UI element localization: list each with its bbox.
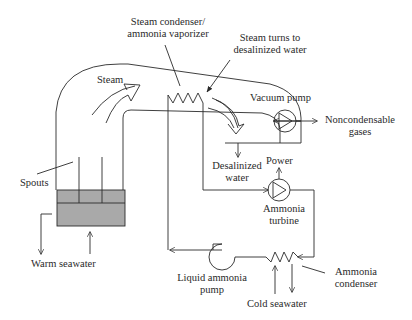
ammonia-turbine-icon xyxy=(268,179,290,201)
ammonia-condenser-leader xyxy=(302,266,325,273)
label-ammonia-turbine: Ammonia turbine xyxy=(259,203,309,227)
label-spouts: Spouts xyxy=(20,177,49,189)
condenser-leader xyxy=(165,45,180,86)
steam-condenser xyxy=(168,93,203,250)
label-liquid-ammonia-pump: Liquid ammonia pump xyxy=(167,272,257,296)
ammonia-condenser-icon xyxy=(235,252,298,262)
label-warm-seawater: Warm seawater xyxy=(31,258,96,270)
label-vacuum-pump: Vacuum pump xyxy=(250,92,311,104)
evaporator-tank xyxy=(57,157,125,226)
label-ammonia-condenser: Ammonia condenser xyxy=(329,266,383,290)
label-noncondensable: Noncondensable gases xyxy=(320,114,400,138)
label-cold-seawater: Cold seawater xyxy=(247,298,307,310)
liquid-ammonia-pump-icon xyxy=(209,244,235,270)
steam-flow-arrows xyxy=(92,84,140,123)
label-steam-condenser: Steam condenser/ ammonia vaporizer xyxy=(118,16,218,40)
warm-seawater-out-arrow xyxy=(41,214,52,254)
condensate-arrows xyxy=(208,98,244,134)
label-power: Power xyxy=(266,155,293,167)
label-steam: Steam xyxy=(97,74,123,86)
label-steam-turns: Steam turns to desalinized water xyxy=(228,32,312,56)
label-desalinized-water: Desalinized water xyxy=(208,160,266,184)
spouts-leader xyxy=(37,162,73,174)
